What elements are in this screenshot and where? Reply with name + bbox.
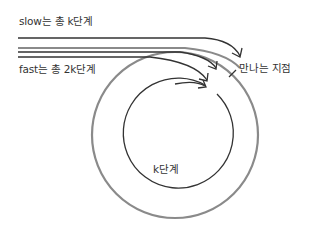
meeting-point-label: 만나는 지점	[239, 60, 291, 75]
diagram-canvas	[0, 0, 318, 228]
slow-label: slow는 총 k단계	[19, 13, 93, 28]
cycle-steps-label: k단계	[153, 161, 178, 176]
fast-label: fast는 총 2k단계	[19, 61, 96, 76]
slow-arrow-head	[232, 48, 242, 57]
